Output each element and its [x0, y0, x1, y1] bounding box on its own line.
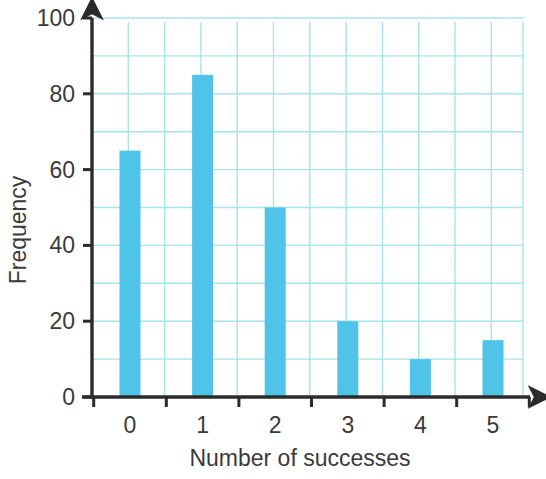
chart-canvas: 020406080100 012345 Number of successes … [0, 0, 546, 479]
bar-3 [337, 321, 358, 397]
y-tick-label: 0 [62, 384, 75, 410]
bar-4 [410, 359, 431, 397]
bar-chart-figure: 020406080100 012345 Number of successes … [0, 0, 546, 479]
bar-5 [483, 340, 504, 397]
bar-2 [265, 208, 286, 398]
y-tick-label: 20 [49, 308, 75, 334]
bar-0 [120, 151, 141, 397]
y-tick-label: 100 [37, 5, 75, 31]
x-tick-label: 2 [269, 412, 282, 438]
bar-1 [192, 75, 213, 397]
x-tick-label: 4 [414, 412, 427, 438]
y-tick-label: 40 [49, 232, 75, 258]
x-tick-label: 0 [124, 412, 137, 438]
x-axis-title: Number of successes [189, 445, 410, 471]
y-tick-label: 60 [49, 157, 75, 183]
x-tick-label: 5 [487, 412, 500, 438]
y-tick-label: 80 [49, 81, 75, 107]
x-tick-label: 1 [196, 412, 209, 438]
x-tick-label: 3 [341, 412, 354, 438]
y-axis-title: Frequency [5, 175, 31, 284]
